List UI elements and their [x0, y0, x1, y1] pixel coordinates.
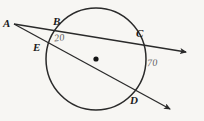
point-label-B: B — [53, 16, 60, 27]
center-dot — [93, 56, 98, 61]
point-label-C: C — [136, 28, 143, 39]
point-label-D: D — [130, 95, 138, 106]
arc-measure-far: 70 — [147, 58, 158, 69]
geometry-diagram: A B C E D 20 70 — [0, 0, 204, 121]
point-label-A: A — [3, 18, 10, 29]
geometry-canvas — [0, 0, 204, 121]
point-label-E: E — [33, 42, 40, 53]
arc-measure-near: 20 — [53, 32, 65, 43]
